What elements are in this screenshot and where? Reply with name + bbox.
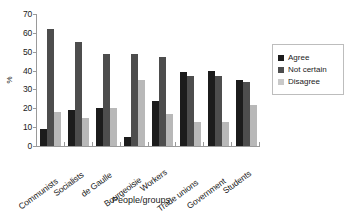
bar-chart: % 010203040506070 CommunistsSocialistsde…	[0, 0, 349, 213]
y-tick-mark	[33, 52, 36, 53]
bar	[152, 101, 159, 146]
legend-item-disagree: Disagree	[278, 77, 339, 86]
bar-group	[204, 14, 232, 146]
bar	[194, 122, 201, 147]
x-tick-labels: CommunistsSocialistsde GaulleBourgeoisie…	[37, 148, 261, 198]
x-tick-label: Students	[247, 149, 279, 176]
bar-group	[65, 14, 93, 146]
bar	[96, 108, 103, 146]
bar	[47, 29, 54, 146]
bar	[250, 105, 257, 146]
y-tick-label: 40	[23, 66, 32, 76]
bar	[215, 76, 222, 146]
y-tick-label: 60	[23, 28, 32, 38]
legend-label: Disagree	[288, 77, 320, 86]
x-tick-label-cell: Workers	[149, 148, 177, 198]
bar	[103, 54, 110, 146]
bar	[138, 80, 145, 146]
bar-groups	[37, 14, 260, 146]
legend-swatch-icon	[278, 79, 284, 85]
y-tick-mark	[33, 71, 36, 72]
y-tick-label: 50	[23, 47, 32, 57]
bar	[40, 129, 47, 146]
bar	[82, 118, 89, 146]
x-tick-mark	[259, 142, 260, 146]
bar	[236, 80, 243, 146]
bar-group	[176, 14, 204, 146]
y-tick-mark	[33, 33, 36, 34]
x-axis-line	[36, 146, 260, 147]
bar	[124, 137, 131, 146]
bar-group	[93, 14, 121, 146]
bar	[187, 76, 194, 146]
legend-swatch-icon	[278, 55, 284, 61]
y-tick-label: 10	[23, 122, 32, 132]
bar	[208, 71, 215, 146]
y-tick-mark	[33, 127, 36, 128]
legend-label: Agree	[288, 53, 309, 62]
bar	[166, 114, 173, 146]
y-tick-mark	[33, 14, 36, 15]
legend-swatch-icon	[278, 67, 284, 73]
x-axis-title: People/groups	[112, 195, 170, 205]
bar	[68, 110, 75, 146]
bar-group	[121, 14, 149, 146]
y-tick-mark	[33, 108, 36, 109]
y-tick-label: 30	[23, 84, 32, 94]
bar	[131, 54, 138, 146]
chart-legend: Agree Not certain Disagree	[272, 44, 344, 95]
plot-area: % 010203040506070	[36, 14, 260, 146]
bar	[110, 108, 117, 146]
bar-group	[149, 14, 177, 146]
y-axis-title: %	[5, 76, 14, 83]
bar-group	[232, 14, 260, 146]
y-tick-mark	[33, 146, 36, 147]
y-tick-label: 20	[23, 103, 32, 113]
bar	[54, 112, 61, 146]
bar-group	[37, 14, 65, 146]
bar	[243, 82, 250, 146]
bar	[75, 42, 82, 146]
y-tick-label: 70	[23, 9, 32, 19]
legend-label: Not certain	[288, 65, 327, 74]
bar	[180, 72, 187, 146]
legend-item-not-certain: Not certain	[278, 65, 339, 74]
bar	[159, 57, 166, 146]
y-tick-label: 0	[27, 141, 32, 151]
legend-item-agree: Agree	[278, 53, 339, 62]
bar	[222, 122, 229, 147]
x-tick-label-cell: Students	[233, 148, 261, 198]
y-tick-mark	[33, 89, 36, 90]
